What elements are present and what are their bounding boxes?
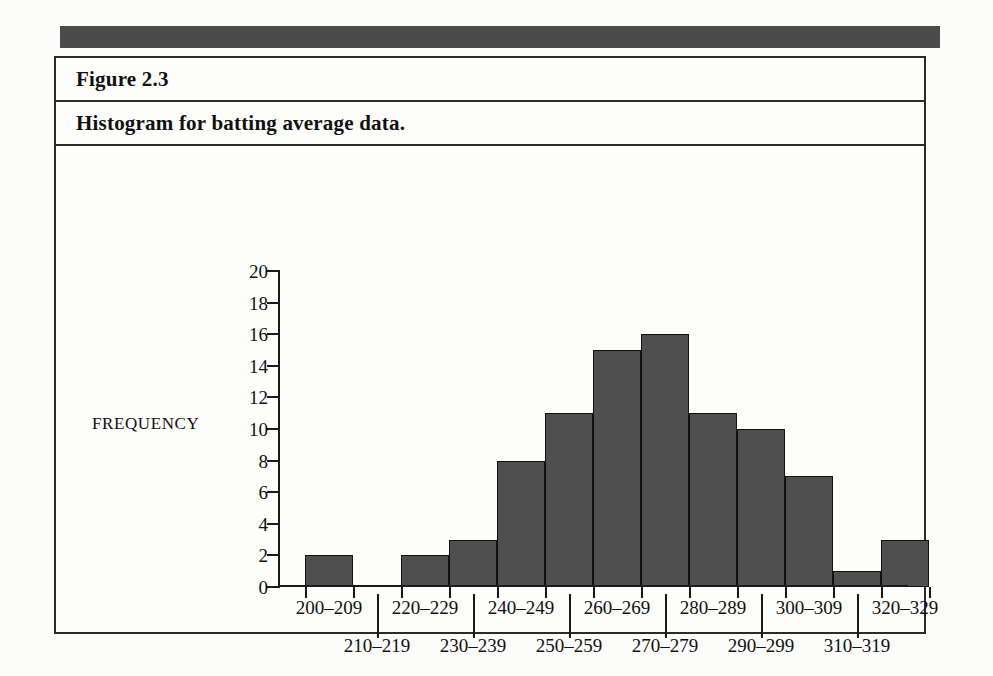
- y-axis-line: [278, 271, 280, 587]
- y-tick-6: [267, 491, 280, 493]
- y-tick-14: [267, 365, 280, 367]
- histogram-bars: [305, 271, 929, 587]
- histogram-bar: [593, 350, 641, 587]
- y-tick-4: [267, 523, 280, 525]
- x-tick-label: 290–299: [728, 636, 795, 655]
- x-tick-label: 220–229: [392, 598, 459, 617]
- plot-area: FREQUENCY 02468101214161820 200–209210–2…: [56, 146, 924, 634]
- histogram-bar: [737, 429, 785, 587]
- y-tick-label-4: 4: [56, 514, 268, 533]
- y-tick-label-8: 8: [56, 451, 268, 470]
- figure-label: Figure 2.3: [56, 67, 169, 92]
- y-tick-20: [267, 270, 280, 272]
- histogram-bar: [641, 334, 689, 587]
- x-tick-label: 230–239: [440, 636, 507, 655]
- x-label-separator: [857, 594, 859, 638]
- x-tick-label: 250–259: [536, 636, 603, 655]
- x-tick-label: 260–269: [584, 598, 651, 617]
- x-label-separator: [761, 594, 763, 638]
- figure-frame: Figure 2.3 Histogram for batting average…: [54, 56, 926, 634]
- x-tick-label: 270–279: [632, 636, 699, 655]
- y-tick-label-0: 0: [56, 578, 268, 597]
- y-tick-10: [267, 428, 280, 430]
- histogram-bar: [449, 540, 497, 587]
- histogram-bar: [689, 413, 737, 587]
- y-tick-18: [267, 302, 280, 304]
- histogram-bar: [785, 476, 833, 587]
- figure-title-row: Histogram for batting average data.: [56, 102, 924, 146]
- x-tick-label: 310–319: [824, 636, 891, 655]
- y-tick-label-14: 14: [56, 356, 268, 375]
- figure-title: Histogram for batting average data.: [56, 111, 405, 136]
- x-label-separator: [473, 594, 475, 638]
- histogram-bar: [497, 461, 545, 587]
- figure-label-row: Figure 2.3: [56, 58, 924, 102]
- x-tick-label: 300–309: [776, 598, 843, 617]
- y-tick-label-2: 2: [56, 546, 268, 565]
- y-tick-label-12: 12: [56, 388, 268, 407]
- y-tick-12: [267, 396, 280, 398]
- histogram-bar: [305, 555, 353, 587]
- y-tick-label-6: 6: [56, 483, 268, 502]
- x-label-separator: [569, 594, 571, 638]
- y-tick-label-16: 16: [56, 325, 268, 344]
- x-tick-label: 200–209: [296, 598, 363, 617]
- y-tick-16: [267, 333, 280, 335]
- y-tick-2: [267, 554, 280, 556]
- x-tick-label-group: 200–209210–219220–229230–239240–249250–2…: [278, 598, 978, 668]
- decorative-header-bar: [60, 26, 940, 48]
- y-tick-label-10: 10: [56, 420, 268, 439]
- y-tick-label-20: 20: [56, 262, 268, 281]
- x-tick-label: 320–329: [872, 598, 939, 617]
- histogram-bar: [545, 413, 593, 587]
- x-label-separator: [665, 594, 667, 638]
- x-label-separator: [377, 594, 379, 638]
- x-tick-label: 210–219: [344, 636, 411, 655]
- x-tick-label: 280–289: [680, 598, 747, 617]
- x-tick-label: 240–249: [488, 598, 555, 617]
- y-tick-label-18: 18: [56, 293, 268, 312]
- histogram-bar: [881, 540, 929, 587]
- y-tick-8: [267, 460, 280, 462]
- histogram-bar: [401, 555, 449, 587]
